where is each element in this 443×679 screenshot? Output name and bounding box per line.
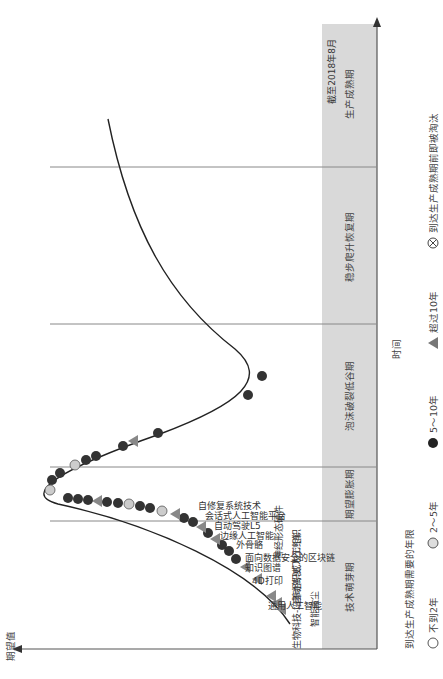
grey-circle-marker-icon <box>157 506 167 516</box>
black-circle-marker-icon <box>63 493 73 503</box>
black-circle-marker-icon <box>257 371 267 381</box>
grey-circle-legend-icon <box>428 538 438 548</box>
triangle-marker-icon <box>92 495 102 507</box>
phase-label-trough: 泡沫破裂低谷期 <box>344 361 355 431</box>
point-label: 会话式人工智能平台 <box>205 510 286 521</box>
black-circle-marker-icon <box>91 451 101 461</box>
legend-item-2to5: 2～5年 <box>428 501 439 533</box>
legend-item-5to10: 5～10年 <box>428 395 439 433</box>
legend-item-gt10: 超过10年 <box>428 291 439 333</box>
black-circle-marker-icon <box>102 497 112 507</box>
phase-label-trigger: 技术萌芽期 <box>344 562 355 612</box>
black-circle-marker-icon <box>179 513 189 523</box>
markers <box>45 371 286 615</box>
point-label: 边缘人工智能 <box>220 530 274 541</box>
grey-circle-marker-icon <box>124 499 134 509</box>
black-circle-marker-icon <box>231 554 241 564</box>
black-circle-marker-icon <box>73 494 83 504</box>
phase-label-peak: 期望膨胀期 <box>344 469 355 519</box>
black-circle-marker-icon <box>153 428 163 438</box>
point-label: 自修复系统技术 <box>198 500 261 511</box>
black-circle-marker-icon <box>145 503 155 513</box>
legend-item-obsolete: 到达生产成熟期前即被淘汰 <box>428 113 439 233</box>
point-label: 面向数据安全的区块链 <box>245 552 335 563</box>
x-axis-label: 时间 <box>391 339 402 359</box>
date-note: 截至2018年8月 <box>326 39 337 104</box>
triangle-legend-icon <box>428 337 438 349</box>
point-labels: 智能微尘 生物科技-培养组织或人工组织 自动驾驶飞行汽车 通用人工智能 4D打印… <box>198 500 335 649</box>
y-axis-label: 期望值 <box>5 631 16 661</box>
black-circle-marker-icon <box>118 441 128 451</box>
black-circle-marker-icon <box>243 390 253 400</box>
grey-circle-marker-icon <box>70 460 80 470</box>
open-circle-legend-icon <box>428 638 438 648</box>
black-circle-marker-icon <box>113 498 123 508</box>
phase-label-plateau: 生产成熟期 <box>344 69 355 119</box>
grey-circle-marker-icon <box>45 485 55 495</box>
crossed-circle-legend-icon <box>428 238 438 248</box>
legend-item-lt2: 不到2年 <box>428 597 439 633</box>
legend-title: 到达生产成熟期需要的年限 <box>404 529 415 649</box>
black-circle-marker-icon <box>188 517 198 527</box>
black-circle-marker-icon <box>55 468 65 478</box>
x-axis-arrow-icon <box>373 17 381 27</box>
black-circle-marker-icon <box>47 475 57 485</box>
point-label: 知识图谱 <box>245 562 281 573</box>
legend: 到达生产成熟期需要的年限 不到2年 2～5年 5～10年 超过10年 到达生产成… <box>404 113 439 649</box>
point-label: 自动驾驶飞行汽车 <box>291 532 302 604</box>
phase-label-slope: 稳步爬升恢复期 <box>344 212 355 282</box>
point-label: 通用人工智能 <box>268 600 322 611</box>
point-label: 4D打印 <box>252 575 283 586</box>
black-circle-marker-icon <box>135 501 145 511</box>
black-circle-legend-icon <box>428 438 438 448</box>
hype-cycle-chart: 技术萌芽期 期望膨胀期 泡沫破裂低谷期 稳步爬升恢复期 生产成熟期 截至2018… <box>0 0 443 679</box>
triangle-marker-icon <box>170 508 180 520</box>
black-circle-marker-icon <box>81 455 91 465</box>
black-circle-marker-icon <box>83 495 93 505</box>
point-label: 自动驾驶L5 <box>214 520 261 531</box>
